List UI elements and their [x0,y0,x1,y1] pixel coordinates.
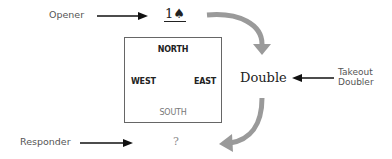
curved-flow-arrow-bottom-icon [219,98,262,152]
opening-bid: 1♠ [164,6,186,22]
double-bid: Double [240,70,287,85]
north-seat: NORTH [125,45,221,54]
bridge-table: NORTH WEST EAST SOUTH [124,37,222,123]
east-seat: EAST [194,77,216,86]
responder-bid: ? [173,135,179,148]
takeout-doubler-label: Takeout Doubler [338,67,374,87]
doubler-pointer-arrow-icon [292,74,334,82]
takeout-doubler-label-line2: Doubler [338,77,374,87]
south-seat: SOUTH [125,108,221,117]
responder-label: Responder [20,136,71,147]
takeout-doubler-label-line1: Takeout [338,67,374,77]
west-seat: WEST [131,77,156,86]
responder-pointer-arrow-icon [80,139,133,147]
opener-label: Opener [49,9,84,20]
opener-pointer-arrow-icon [97,12,148,20]
